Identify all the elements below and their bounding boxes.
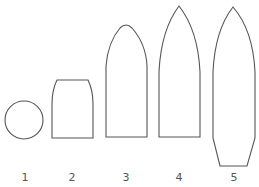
label-4: 4 [169,171,189,184]
shape-1-circle [5,101,43,139]
label-3: 3 [116,171,136,184]
label-1: 1 [15,171,35,184]
shape-5-boattail-ogive [213,7,255,166]
label-5: 5 [224,171,244,184]
shape-3-rounded-ogive [106,25,147,137]
shapes-diagram [0,0,259,187]
shape-2-truncated-block [52,80,93,138]
label-2: 2 [62,171,82,184]
shape-4-pointed-ogive [159,6,200,137]
